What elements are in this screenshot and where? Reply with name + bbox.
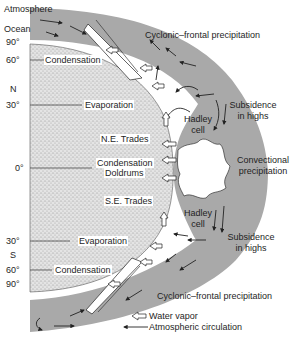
south-hadley-cell-label-2: cell (178, 219, 218, 229)
north-hadley-cell-label-2: cell (178, 125, 218, 135)
lat-0: 0° (15, 163, 24, 173)
atmosphere-label: Atmosphere (4, 4, 53, 14)
lat-30n: 30° (6, 100, 20, 110)
evaporation-30s-label: Evaporation (78, 236, 128, 246)
north-cyclonic-precipitation-label: Cyclonic–frontal precipitation (145, 30, 260, 40)
south-subsidence-label-2: in highs (221, 243, 281, 253)
lat-30s: 30° (6, 236, 20, 246)
convection-cloud (178, 139, 231, 198)
se-trades-label: S.E. Trades (104, 196, 153, 206)
ocean-label: Ocean (4, 24, 31, 34)
north-subsidence-label-1: Subsidence (223, 100, 283, 110)
doldrums-label: Doldrums (104, 168, 145, 178)
condensation-equator-label: Condensation (96, 158, 154, 168)
north-subsidence-label-2: in highs (223, 111, 283, 121)
condensation-60n-label: Condensation (44, 55, 102, 65)
evaporation-30n-label: Evaporation (84, 100, 134, 110)
south-subsidence-label-1: Subsidence (221, 232, 281, 242)
convectional-precipitation-label-2: precipitation (230, 166, 296, 176)
lat-60n: 60° (6, 55, 20, 65)
convectional-precipitation-label-1: Convectional (230, 155, 296, 165)
condensation-60s-label: Condensation (54, 265, 112, 275)
north-label: N (10, 84, 17, 94)
south-cyclonic-precipitation-label: Cyclonic–frontal precipitation (157, 291, 272, 301)
south-label: S (10, 250, 16, 260)
north-hadley-cell-label-1: Hadley (178, 114, 218, 124)
south-hadley-cell-label-1: Hadley (178, 208, 218, 218)
legend-water-vapor: Water vapor (149, 311, 198, 321)
legend-atmospheric-circulation: Atmospheric circulation (149, 322, 242, 332)
lat-60s: 60° (6, 265, 20, 275)
lat-90s: 90° (6, 279, 20, 289)
lat-90n: 90° (6, 37, 20, 47)
ne-trades-label: N.E. Trades (100, 134, 150, 144)
